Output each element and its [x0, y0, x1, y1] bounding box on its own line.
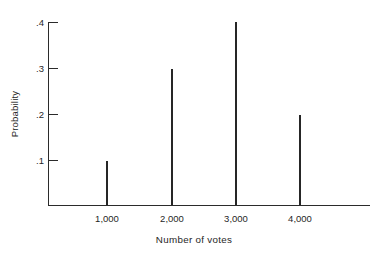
x-axis-title: Number of votes: [156, 234, 232, 245]
y-tick-label-2: .2: [36, 109, 44, 120]
chart-canvas: .4 .3 .2 .1 1,000 2,000 3,000 4,000 Numb…: [0, 0, 379, 257]
chart-background: [0, 0, 379, 257]
probability-distribution-chart: .4 .3 .2 .1 1,000 2,000 3,000 4,000 Numb…: [0, 0, 379, 257]
y-tick-label-1: .3: [36, 63, 44, 74]
y-axis-title: Probability: [9, 91, 20, 138]
y-tick-label-0: .4: [36, 17, 44, 28]
y-tick-label-3: .1: [36, 155, 44, 166]
x-tick-label-1: 2,000: [160, 213, 184, 224]
x-tick-label-0: 1,000: [95, 213, 119, 224]
x-tick-label-2: 3,000: [224, 213, 248, 224]
x-tick-label-3: 4,000: [288, 213, 312, 224]
